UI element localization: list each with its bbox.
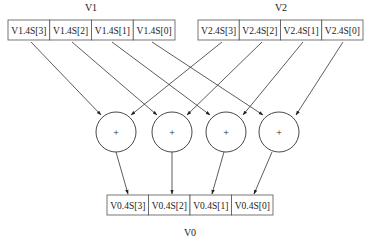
v2-cell-0-text: V2.4S[0] [325,26,360,36]
v0-cell-1-text: V0.4S[1] [193,201,228,211]
arrow-adder-2-to-v0-1 [212,152,224,194]
adder-0: + [96,112,136,152]
v1-cell-2-text: V1.4S[2] [53,26,88,36]
v1-cell-0-text: V1.4S[0] [137,26,172,36]
v0-register: V0.4S[3] V0.4S[2] V0.4S[1] V0.4S[0] [107,195,273,215]
v2-cell-1-text: V2.4S[1] [284,26,319,36]
plus-icon: + [169,127,175,138]
arrow-adder-0-to-v0-3 [116,152,128,194]
v2-label: V2 [275,2,287,13]
v1-cell-3-text: V1.4S[3] [11,26,46,36]
plus-icon: + [223,127,229,138]
adder-3: + [259,112,299,152]
arrow-v1-1-to-adder-2 [112,42,210,115]
arrow-v2-1-to-adder-2 [243,42,303,115]
v2-register: V2.4S[3] V2.4S[2] V2.4S[1] V2.4S[0] [198,20,363,40]
v1-cell-1-text: V1.4S[1] [95,26,130,36]
arrow-v2-2-to-adder-1 [187,42,262,115]
adder-1: + [152,112,192,152]
v0-cell-2-text: V0.4S[2] [152,201,187,211]
adders: + + + + [96,112,299,152]
plus-icon: + [276,127,282,138]
vector-add-diagram: V1 V2 V0 V1.4S[3] V1.4S[2] V1.4S[1] V1.4… [0,0,368,243]
v0-label: V0 [184,227,196,238]
arrow-v1-3-to-adder-0 [31,42,101,115]
adder-2: + [206,112,246,152]
arrow-v2-0-to-adder-3 [296,42,343,115]
v0-cell-0-text: V0.4S[0] [235,201,270,211]
plus-icon: + [113,127,119,138]
v2-cell-3-text: V2.4S[3] [201,26,236,36]
arrow-adder-3-to-v0-0 [254,152,272,194]
v1-edges [31,42,263,115]
arrow-v2-3-to-adder-0 [131,42,222,115]
v2-edges [131,42,343,115]
v0-cell-3-text: V0.4S[3] [110,201,145,211]
arrow-v1-0-to-adder-3 [152,42,263,115]
result-edges [116,152,272,194]
v2-cell-2-text: V2.4S[2] [242,26,277,36]
v1-label: V1 [85,2,97,13]
v1-register: V1.4S[3] V1.4S[2] V1.4S[1] V1.4S[0] [8,20,175,40]
